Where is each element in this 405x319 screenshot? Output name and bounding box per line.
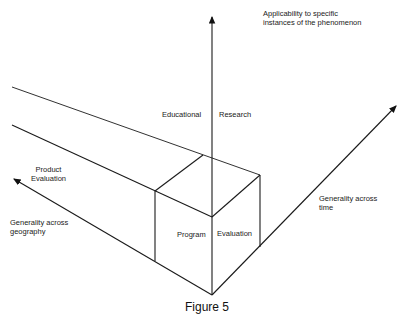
time-axis-label-line2: time: [319, 204, 377, 213]
figure-caption: Figure 5: [185, 300, 229, 314]
vertical-axis-label: Applicability to specific instances of t…: [263, 10, 361, 27]
vertical-axis-label-line2: instances of the phenomenon: [263, 19, 361, 28]
cube-label-evaluation: Evaluation: [217, 230, 252, 239]
cube-top-right: [212, 175, 260, 217]
cube-top-left: [155, 155, 203, 191]
band-label-line2: Evaluation: [31, 175, 66, 184]
geography-axis-label-line2: geography: [10, 228, 68, 237]
band-top-line: [12, 87, 260, 175]
diagram-canvas: [0, 0, 405, 319]
region-educational: Educational: [162, 111, 201, 120]
cube-label-program: Program: [177, 231, 206, 240]
region-research: Research: [219, 111, 251, 120]
time-axis-label: Generality across time: [319, 195, 377, 212]
geography-axis-label: Generality across geography: [10, 219, 68, 236]
band-label: Product Evaluation: [31, 166, 66, 183]
